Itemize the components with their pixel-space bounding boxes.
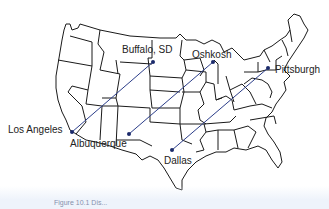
routes [72,62,268,150]
dot-dallas [170,148,174,152]
label-dallas: Dallas [164,155,192,166]
dot-pittsburgh [266,66,270,70]
label-pittsburgh: Pittsburgh [275,64,320,75]
label-los-angeles: Los Angeles [8,124,63,135]
label-albuquerque: Albuquerque [70,138,127,149]
label-buffalo-sd: Buffalo, SD [122,44,172,55]
label-oshkosh: Oshkosh [192,49,231,60]
dot-oshkosh [211,60,215,64]
dot-buffalo-sd [151,60,155,64]
bottom-fade [0,186,329,209]
us-map [0,0,329,209]
dot-albuquerque [127,132,131,136]
figure-caption: Figure 10.1 Dis... [54,199,107,206]
dot-los-angeles [70,130,74,134]
